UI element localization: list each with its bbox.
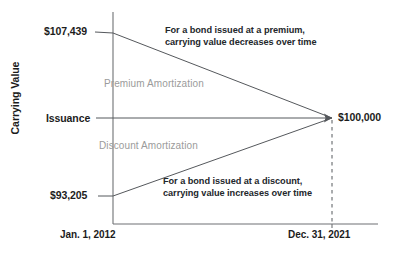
premium-annotation-line-2: carrying value decreases over time bbox=[165, 37, 317, 49]
discount-annotation-line-1: For a bond issued at a discount, bbox=[163, 176, 312, 188]
discount-annotation: For a bond issued at a discount, carryin… bbox=[163, 176, 312, 200]
maturity-value-label: $100,000 bbox=[338, 111, 381, 124]
issuance-value-label: Issuance bbox=[46, 112, 90, 125]
y-axis-title: Carrying Value bbox=[9, 55, 21, 141]
x-axis-start-date-label: Jan. 1, 2012 bbox=[60, 229, 116, 242]
premium-label-leader-line bbox=[95, 32, 113, 33]
premium-amortization-series-label: Premium Amortization bbox=[104, 78, 204, 91]
discount-amortization-series-label: Discount Amortization bbox=[99, 140, 198, 153]
premium-annotation-line-1: For a bond issued at a premium, bbox=[165, 25, 317, 37]
discount-annotation-line-2: carrying value increases over time bbox=[163, 188, 312, 200]
bond-carrying-value-chart: Carrying Value $107,439 Issuance $93,205… bbox=[0, 0, 402, 257]
x-axis-end-date-label: Dec. 31, 2021 bbox=[288, 229, 350, 242]
premium-start-value-label: $107,439 bbox=[44, 25, 87, 38]
premium-annotation: For a bond issued at a premium, carrying… bbox=[165, 25, 317, 49]
discount-start-value-label: $93,205 bbox=[50, 189, 87, 202]
series-lines-group bbox=[113, 33, 332, 196]
